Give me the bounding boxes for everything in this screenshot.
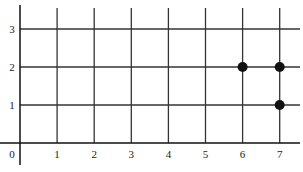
- x-tick-label: 3: [129, 148, 135, 160]
- x-tick-label: 7: [277, 148, 283, 160]
- data-points: [238, 62, 285, 110]
- y-tick-label: 3: [9, 23, 15, 35]
- scatter-chart: 01234567 123: [0, 0, 303, 172]
- grid-lines: [20, 8, 300, 143]
- x-tick-label: 4: [166, 148, 172, 160]
- x-tick-label: 6: [240, 148, 246, 160]
- y-tick-label: 2: [9, 61, 15, 73]
- x-tick-label: 5: [203, 148, 209, 160]
- x-tick-label: 1: [54, 148, 60, 160]
- y-axis-tick-labels: 123: [9, 23, 15, 111]
- x-tick-label: 0: [9, 148, 15, 160]
- data-point: [238, 62, 248, 72]
- x-axis-tick-labels: 01234567: [9, 148, 283, 160]
- x-tick-label: 2: [91, 148, 97, 160]
- data-point: [275, 62, 285, 72]
- data-point: [275, 100, 285, 110]
- y-tick-label: 1: [9, 99, 15, 111]
